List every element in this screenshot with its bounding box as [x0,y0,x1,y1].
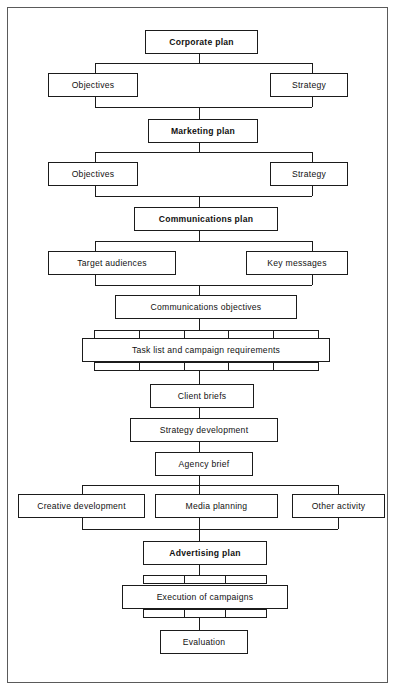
corporate-stem-top [199,54,200,63]
activities-drop-centre [199,485,200,494]
node-label: Marketing plan [171,126,235,136]
node-label: Execution of campaigns [157,592,254,602]
communications-drop-right [312,241,313,251]
node-strategy-development: Strategy development [130,418,278,442]
activities-drop-left [82,485,83,494]
corporate-rise-left [95,97,96,107]
task-list-comb-bottom-cell-3 [184,362,230,371]
node-label: Strategy development [160,425,249,435]
client-briefs-stem [199,408,200,418]
activities-rail-top [82,485,338,486]
node-label: Corporate plan [169,37,234,47]
task-list-comb-bottom-cell-4 [228,362,274,371]
task-list-stem-bottom [199,371,200,384]
node-marketing-strategy: Strategy [270,162,348,186]
execution-comb-top-cell-1 [143,575,185,584]
node-execution-of-campaigns: Execution of campaigns [122,585,288,609]
corporate-rail-top [95,63,312,64]
node-corporate-objectives: Objectives [48,73,138,97]
node-marketing-objectives: Objectives [48,162,138,186]
marketing-rail-top [95,152,312,153]
communications-drop-left [95,241,96,251]
node-agency-brief: Agency brief [155,452,253,476]
execution-comb-bottom-cell-2 [184,609,226,618]
agency-brief-stem [199,476,200,485]
node-label: Evaluation [183,637,226,647]
node-target-audiences: Target audiences [48,251,176,275]
marketing-rise-left [95,186,96,196]
execution-comb-top-cell-3 [225,575,267,584]
node-media-planning: Media planning [155,494,278,518]
task-list-comb-bottom-cell-1 [94,362,140,371]
node-label: Media planning [186,501,248,511]
node-communications-objectives: Communications objectives [115,295,297,319]
node-label: Client briefs [178,391,227,401]
node-label: Key messages [267,258,326,268]
node-advertising-plan: Advertising plan [143,541,267,565]
diagram-frame: Corporate planObjectivesStrategyMarketin… [7,7,388,683]
node-corporate-plan: Corporate plan [145,30,258,54]
communications-rail-top [95,241,312,242]
corporate-drop-left [95,63,96,73]
corporate-rail-bottom [95,107,312,108]
node-communications-plan: Communications plan [134,207,278,231]
corporate-rise-right [312,97,313,107]
corporate-stem-bottom [199,107,200,119]
node-marketing-plan: Marketing plan [148,119,258,143]
marketing-stem-top [199,143,200,152]
node-label: Creative development [37,501,126,511]
task-list-comb-bottom-cell-5 [273,362,319,371]
marketing-drop-right [312,152,313,162]
node-label: Communications objectives [151,302,262,312]
node-label: Strategy [292,169,326,179]
node-other-activity: Other activity [292,494,385,518]
node-client-briefs: Client briefs [150,384,254,408]
activities-rise-left [82,518,83,529]
node-evaluation: Evaluation [160,630,248,654]
marketing-drop-left [95,152,96,162]
node-label: Strategy [292,80,326,90]
marketing-rail-bottom [95,196,312,197]
node-label: Target audiences [77,258,146,268]
activities-rise-right [338,518,339,529]
execution-comb-bottom-cell-3 [225,609,267,618]
communications-rise-right [312,275,313,285]
marketing-rise-right [312,186,313,196]
node-label: Task list and campaign requirements [132,345,280,355]
corporate-drop-right [312,63,313,73]
node-label: Communications plan [159,214,254,224]
communications-stem-bottom [199,285,200,295]
execution-comb-bottom-cell-1 [143,609,185,618]
marketing-stem-bottom [199,196,200,207]
activities-drop-right [338,485,339,494]
node-creative-development: Creative development [18,494,145,518]
flowchart-canvas: Corporate planObjectivesStrategyMarketin… [8,8,387,682]
node-label: Advertising plan [169,548,240,558]
execution-comb-top-cell-2 [184,575,226,584]
communications-rail-bottom [95,285,312,286]
advertising-plan-stem-out [199,565,200,575]
node-label: Objectives [72,169,115,179]
evaluation-stem [199,618,200,630]
communications-rise-left [95,275,96,285]
node-corporate-strategy: Strategy [270,73,348,97]
communications-stem-top [199,231,200,241]
node-task-list: Task list and campaign requirements [82,338,330,362]
node-label: Objectives [72,80,115,90]
task-list-comb-bottom-cell-2 [139,362,185,371]
activities-rail-bottom [82,529,338,530]
node-key-messages: Key messages [246,251,348,275]
comms-objectives-stem [199,319,200,330]
node-label: Agency brief [179,459,230,469]
strategy-development-stem [199,442,200,452]
advertising-plan-stem-in [199,518,200,541]
node-label: Other activity [312,501,366,511]
